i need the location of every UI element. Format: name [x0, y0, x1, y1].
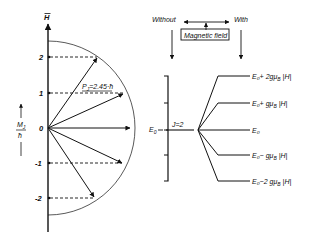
level-label-m1: E₀+ gμB |H|	[252, 100, 288, 109]
level-label-mminus1: E₀− gμB |H|	[252, 152, 288, 161]
zeeman-split-lines	[198, 76, 250, 181]
level-label-m0: E₀	[252, 127, 260, 134]
with-label: With	[234, 16, 248, 23]
vector-length-label: PJ=2.45·ħ	[82, 83, 113, 92]
without-label: Without	[152, 16, 177, 23]
tick-1: 1	[39, 89, 43, 98]
svg-text:PJ=2.45·ħ: PJ=2.45·ħ	[82, 83, 113, 92]
level-label-m2: E₀+ 2gμB |H|	[252, 73, 291, 82]
tick-minus-1: -1	[35, 159, 42, 168]
mj-axis-label: MJ ħ	[16, 104, 26, 156]
energy-diagram: E0 J=2 E₀+ 2gμB |H| E₀+ gμB |H| E₀ E₀− g…	[149, 73, 291, 187]
field-header: Without With Magnetic field	[152, 16, 248, 59]
level-label-mminus2: E₀−2 gμB |H|	[252, 178, 291, 187]
zeeman-diagram: H 2 1 0 -1 -2 PJ=	[0, 0, 321, 241]
vector-model: H 2 1 0 -1 -2 PJ=	[16, 13, 135, 232]
axis-label-h: H	[44, 13, 50, 22]
tick-0: 0	[39, 124, 44, 133]
magnetic-field-label: Magnetic field	[184, 32, 228, 40]
e0-label: E0	[149, 126, 157, 135]
tick-2: 2	[38, 53, 44, 62]
tick-minus-2: -2	[35, 194, 42, 203]
svg-text:MJ: MJ	[17, 121, 26, 130]
j-label: J=2	[171, 121, 184, 128]
energy-bracket	[164, 76, 168, 181]
svg-text:ħ: ħ	[18, 132, 22, 139]
angular-momentum-vectors	[48, 58, 130, 197]
